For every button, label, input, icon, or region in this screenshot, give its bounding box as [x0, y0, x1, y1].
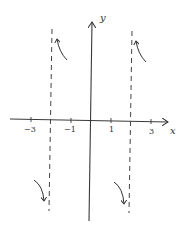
vertical-asymptote-right [129, 31, 132, 213]
tick-label-neg3: −3 [24, 125, 36, 134]
tick-label-1: 1 [109, 125, 114, 134]
curve-upper-left [57, 39, 67, 60]
tick-label-neg1: −1 [64, 125, 76, 134]
curve-upper-right [136, 41, 146, 62]
curve-lower-left [34, 180, 44, 201]
y-axis [89, 22, 92, 221]
tick-label-3: 3 [149, 127, 154, 136]
curve-lower-right [114, 182, 124, 204]
x-axis-label: x [170, 125, 176, 136]
function-graph: −3 −1 1 3 x y [0, 0, 184, 233]
x-axis [10, 119, 168, 122]
y-axis-label: y [99, 12, 106, 23]
